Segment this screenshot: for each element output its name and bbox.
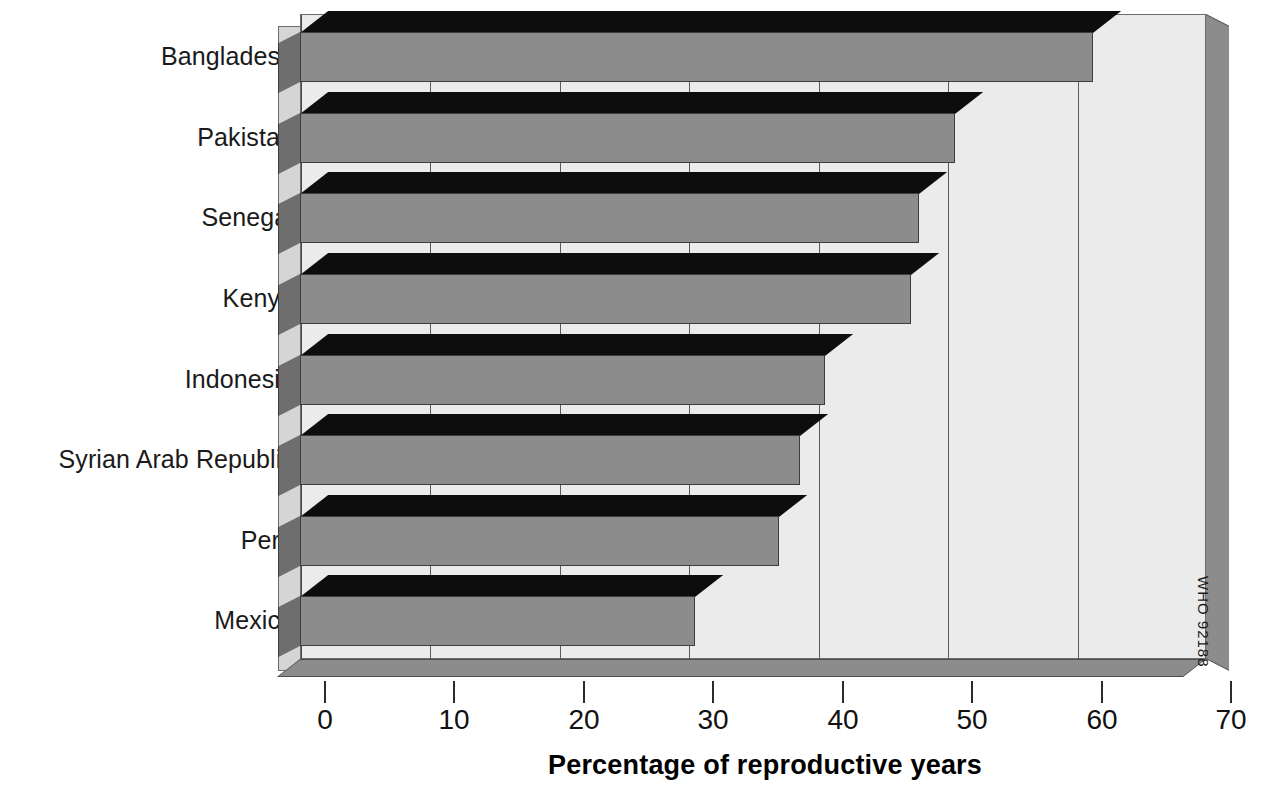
bar-top-face bbox=[300, 575, 723, 597]
x-tick-label-30: 30 bbox=[697, 705, 728, 735]
bar-top-face bbox=[300, 414, 828, 436]
bar-series bbox=[300, 14, 1246, 688]
who-credit-label: WHO 92188 bbox=[1195, 576, 1212, 668]
x-tick-30 bbox=[712, 681, 714, 703]
x-axis: 010203040506070 bbox=[300, 681, 1230, 682]
bar-front-face bbox=[300, 113, 955, 163]
bar-senegal bbox=[300, 193, 919, 243]
x-tick-label-60: 60 bbox=[1086, 705, 1117, 735]
bar-pakistan bbox=[300, 113, 955, 163]
bar-front-face bbox=[300, 516, 779, 566]
bar-mexico bbox=[300, 596, 695, 646]
plot-area bbox=[300, 14, 1246, 688]
bar-peru bbox=[300, 516, 779, 566]
y-axis-label-syrian-arab-republic: Syrian Arab Republic bbox=[59, 447, 294, 472]
bar-top-face bbox=[300, 172, 947, 194]
y-axis-label-bangladesh: Bangladesh bbox=[161, 44, 294, 69]
x-tick-10 bbox=[453, 681, 455, 703]
bar-syrian-arab-republic bbox=[300, 435, 800, 485]
bar-top-face bbox=[300, 495, 807, 517]
bar-front-face bbox=[300, 274, 911, 324]
bar-front-face bbox=[300, 32, 1093, 82]
bar-indonesia bbox=[300, 355, 825, 405]
bar-chart: BangladeshPakistanSenegalKenyaIndonesiaS… bbox=[0, 0, 1262, 807]
x-tick-50 bbox=[971, 681, 973, 703]
x-tick-label-40: 40 bbox=[827, 705, 858, 735]
x-tick-0 bbox=[324, 681, 326, 703]
x-tick-label-20: 20 bbox=[568, 705, 599, 735]
x-axis-title: Percentage of reproductive years bbox=[300, 750, 1230, 781]
x-tick-70 bbox=[1230, 681, 1232, 703]
x-tick-label-10: 10 bbox=[438, 705, 469, 735]
x-tick-label-0: 0 bbox=[317, 705, 333, 735]
x-tick-40 bbox=[842, 681, 844, 703]
bar-front-face bbox=[300, 435, 800, 485]
bar-top-face bbox=[300, 334, 853, 356]
bar-front-face bbox=[300, 596, 695, 646]
bar-top-face bbox=[300, 92, 983, 114]
bar-top-face bbox=[300, 11, 1121, 33]
bar-front-face bbox=[300, 355, 825, 405]
y-axis-category-labels: BangladeshPakistanSenegalKenyaIndonesiaS… bbox=[0, 14, 302, 674]
x-tick-60 bbox=[1101, 681, 1103, 703]
x-tick-label-70: 70 bbox=[1215, 705, 1246, 735]
bar-front-face bbox=[300, 193, 919, 243]
x-tick-label-50: 50 bbox=[956, 705, 987, 735]
bar-kenya bbox=[300, 274, 911, 324]
bar-bangladesh bbox=[300, 32, 1093, 82]
bar-top-face bbox=[300, 253, 939, 275]
x-tick-20 bbox=[583, 681, 585, 703]
